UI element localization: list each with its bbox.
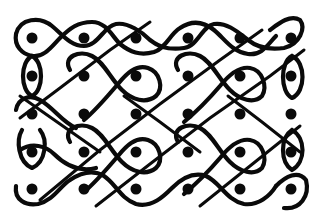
grid-dot [131, 147, 142, 158]
grid-dot [183, 109, 194, 120]
grid-dot [286, 71, 297, 82]
kolam-figure [0, 0, 325, 220]
grid-dot [286, 33, 297, 44]
kolam-lines [16, 18, 307, 208]
grid-dot [286, 184, 297, 195]
grid-dot [27, 109, 38, 120]
grid-dot [131, 184, 142, 195]
grid-dot [235, 71, 246, 82]
grid-dot [183, 147, 194, 158]
grid-dot [131, 71, 142, 82]
grid-dot [183, 33, 194, 44]
grid-dot [183, 184, 194, 195]
grid-dot [286, 147, 297, 158]
grid-dot [131, 109, 142, 120]
grid-dot [27, 184, 38, 195]
grid-dot [183, 71, 194, 82]
grid-dot [79, 184, 90, 195]
grid-dot [235, 147, 246, 158]
grid-dot [235, 33, 246, 44]
grid-dot [131, 33, 142, 44]
grid-dot [27, 33, 38, 44]
grid-dot [79, 71, 90, 82]
grid-dot [27, 147, 38, 158]
grid-dot [79, 109, 90, 120]
grid-dot [79, 33, 90, 44]
grid-dot [79, 147, 90, 158]
grid-dot [235, 109, 246, 120]
grid-dot [27, 71, 38, 82]
grid-dot [286, 109, 297, 120]
grid-dot [235, 184, 246, 195]
